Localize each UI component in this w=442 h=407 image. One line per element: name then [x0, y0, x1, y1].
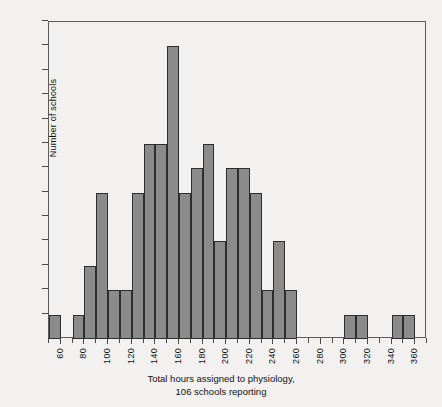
histogram-bar: [49, 315, 61, 339]
x-tick-mark: [367, 338, 368, 344]
x-tick-mark: [143, 338, 144, 343]
histogram-bar: [285, 290, 297, 339]
x-tick-mark: [83, 338, 84, 344]
histogram-bar: [108, 290, 120, 339]
x-tick-mark: [107, 338, 108, 344]
x-tick-mark: [261, 338, 262, 343]
x-tick-mark: [320, 338, 321, 344]
x-tick-mark: [213, 338, 214, 343]
x-tick-mark: [95, 338, 96, 343]
histogram-bar: [132, 193, 144, 339]
x-tick-label: 300: [337, 348, 350, 364]
x-tick-label: 160: [172, 348, 185, 364]
x-tick-mark: [284, 338, 285, 343]
histogram-figure: Number of schools 12345678910111213 6080…: [0, 0, 442, 407]
histogram-bar: [84, 266, 96, 339]
x-tick-label: 340: [385, 348, 398, 364]
histogram-bar: [403, 315, 415, 339]
x-tick-label: 220: [243, 348, 256, 364]
x-tick-mark: [343, 338, 344, 344]
x-tick-label: 60: [54, 348, 67, 359]
histogram-bar: [344, 315, 356, 339]
histogram-bar: [214, 241, 226, 339]
x-axis-caption: Total hours assigned to physiology, 106 …: [0, 372, 442, 398]
histogram-bar: [96, 193, 108, 339]
histogram-bar: [73, 315, 85, 339]
x-tick-mark: [202, 338, 203, 344]
x-tick-label: 200: [219, 348, 232, 364]
x-tick-mark: [225, 338, 226, 344]
plot-area: [48, 21, 426, 338]
x-tick-label: 240: [266, 348, 279, 364]
x-tick-mark: [72, 338, 73, 343]
x-tick-label: 120: [125, 348, 138, 364]
x-tick-label: 280: [314, 348, 327, 364]
x-tick-mark: [272, 338, 273, 344]
x-tick-mark: [190, 338, 191, 343]
x-tick-label: 260: [290, 348, 303, 364]
x-tick-mark: [402, 338, 403, 343]
x-tick-label: 180: [196, 348, 209, 364]
histogram-bar: [144, 144, 156, 339]
histogram-bar: [179, 193, 191, 339]
histogram-bar: [262, 290, 274, 339]
x-tick-mark: [414, 338, 415, 344]
x-tick-mark: [426, 338, 427, 343]
x-tick-label: 320: [361, 348, 374, 364]
histogram-bar: [250, 193, 262, 339]
x-tick-mark: [131, 338, 132, 344]
x-tick-label: 140: [148, 348, 161, 364]
x-tick-mark: [308, 338, 309, 343]
x-tick-mark: [154, 338, 155, 344]
histogram-bar: [238, 168, 250, 339]
x-tick-label: 80: [77, 348, 90, 359]
x-tick-label: 360: [408, 348, 421, 364]
x-tick-mark: [249, 338, 250, 344]
histogram-bar: [392, 315, 404, 339]
histogram-bar: [155, 144, 167, 339]
histogram-bar: [120, 290, 132, 339]
x-tick-mark: [237, 338, 238, 343]
histogram-bar: [356, 315, 368, 339]
histogram-bar: [226, 168, 238, 339]
x-tick-mark: [60, 338, 61, 344]
histogram-bar: [273, 241, 285, 339]
caption-line-2: 106 schools reporting: [0, 385, 442, 398]
x-tick-mark: [391, 338, 392, 344]
histogram-bar: [191, 168, 203, 339]
x-tick-mark: [166, 338, 167, 343]
histogram-bar: [167, 46, 179, 339]
caption-line-1: Total hours assigned to physiology,: [0, 372, 442, 385]
x-tick-mark: [355, 338, 356, 343]
x-tick-mark: [178, 338, 179, 344]
x-tick-label: 100: [101, 348, 114, 364]
x-tick-mark: [48, 338, 49, 343]
x-tick-mark: [332, 338, 333, 343]
x-tick-mark: [379, 338, 380, 343]
histogram-bar: [203, 144, 215, 339]
x-tick-mark: [296, 338, 297, 344]
x-tick-mark: [119, 338, 120, 343]
